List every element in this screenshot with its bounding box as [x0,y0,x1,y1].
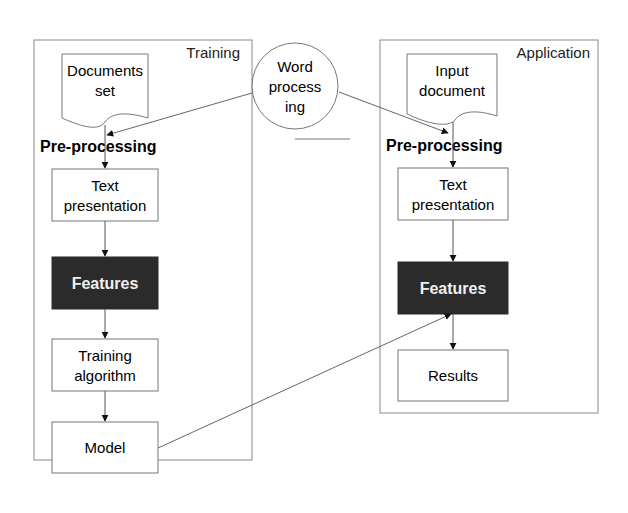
training-preprocessing-label: Pre-processing [40,138,156,155]
training-algorithm-node[interactable]: Training algorithm [52,339,158,391]
training-algorithm-label-1: Training [78,347,132,364]
model-node[interactable]: Model [52,422,158,473]
application-panel-title: Application [517,44,590,61]
training-panel-title: Training [186,44,240,61]
input-document-label-2: document [419,82,486,99]
results-label: Results [428,367,478,384]
training-features-label: Features [72,275,139,292]
word-processing-label-1: Word [277,58,313,75]
word-processing-label-2: process [269,78,322,95]
documents-set-node[interactable]: Documents set [62,54,148,127]
application-features-label: Features [420,280,487,297]
application-features-node[interactable]: Features [398,262,508,314]
application-text-presentation-label-1: Text [439,176,467,193]
training-text-presentation-label-1: Text [91,177,119,194]
application-text-presentation-node[interactable]: Text presentation [398,168,508,220]
training-features-node[interactable]: Features [52,257,158,309]
results-node[interactable]: Results [398,350,508,401]
input-document-node[interactable]: Input document [407,54,497,124]
text-classification-diagram: Training Application Documents set Pre-p… [0,0,628,513]
word-processing-label-3: ing [285,98,305,115]
application-preprocessing-label: Pre-processing [386,137,502,154]
training-text-presentation-label-2: presentation [64,197,147,214]
application-text-presentation-label-2: presentation [412,196,495,213]
word-processing-node[interactable]: Word process ing [252,43,350,139]
training-text-presentation-node[interactable]: Text presentation [52,169,158,221]
documents-set-label-1: Documents [67,62,143,79]
model-label: Model [85,439,126,456]
documents-set-label-2: set [95,82,116,99]
input-document-label-1: Input [435,62,469,79]
training-algorithm-label-2: algorithm [74,367,136,384]
